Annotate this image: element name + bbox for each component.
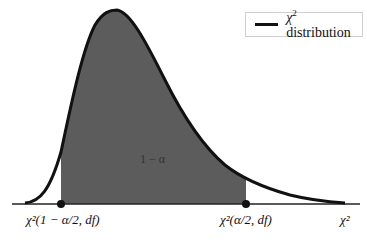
legend-line-swatch — [255, 23, 278, 26]
shaded-area-label: 1 − α — [140, 152, 165, 167]
critical-value-left-label: χ²(1 − α/2, df) — [26, 212, 100, 228]
legend-text: distribution — [286, 25, 351, 40]
legend-label: χ2 distribution — [286, 8, 362, 42]
critical-point-left — [57, 200, 65, 208]
critical-point-right — [242, 200, 250, 208]
legend: χ2 distribution — [245, 12, 363, 37]
critical-value-right-label: χ²(α/2, df) — [220, 212, 272, 228]
legend-superscript: 2 — [292, 8, 297, 18]
x-axis-label: χ² — [340, 212, 350, 228]
